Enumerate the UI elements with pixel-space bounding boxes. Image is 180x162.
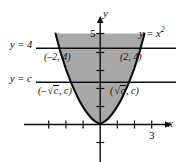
radical-arg-right: c — [120, 85, 126, 96]
radical-left: √c — [46, 85, 59, 96]
label-point-right-4: (2, 4) — [120, 52, 142, 62]
label-line-yc: y = c — [10, 74, 32, 85]
point-left-c-close: , c) — [59, 85, 72, 96]
point-left-c-open: (– — [38, 85, 46, 96]
y-tick-label-5: 5 — [90, 28, 96, 39]
label-point-left-4: (–2, 4) — [44, 52, 71, 62]
label-curve-equation: y = x2 — [139, 26, 164, 39]
point-right-c-close: , c) — [126, 85, 139, 96]
x-axis-label: x — [168, 118, 173, 129]
label-point-right-c: (√c, c) — [110, 85, 139, 96]
radical-arg-left: c — [53, 85, 59, 96]
radical-right: √c — [113, 85, 126, 96]
label-line-y4: y = 4 — [10, 40, 32, 51]
curve-equation-base: y = x — [139, 28, 161, 39]
label-point-left-c: (–√c, c) — [38, 85, 72, 96]
x-tick-label-3: 3 — [149, 130, 155, 141]
curve-equation-exponent: 2 — [161, 25, 165, 34]
graph-figure: y = 4 y = c y = x2 (2, 4) (–2, 4) (√c, c… — [0, 0, 180, 162]
y-axis-label: y — [103, 8, 108, 19]
